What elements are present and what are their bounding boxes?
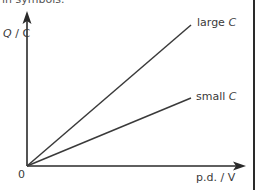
y-axis-label: Q / C — [3, 28, 30, 40]
line-small-c — [27, 98, 191, 166]
origin-label: 0 — [18, 169, 25, 181]
x-axis — [27, 162, 246, 171]
x-axis-label: p.d. / V — [196, 172, 235, 184]
line-large-c — [27, 25, 191, 166]
label-large-c: large C — [197, 17, 236, 29]
label-small-c: small C — [196, 91, 236, 103]
charge-pd-graph: in symbols. Q / C 0 p.d. / V large C sma… — [0, 0, 255, 190]
right-border-line — [253, 0, 255, 190]
